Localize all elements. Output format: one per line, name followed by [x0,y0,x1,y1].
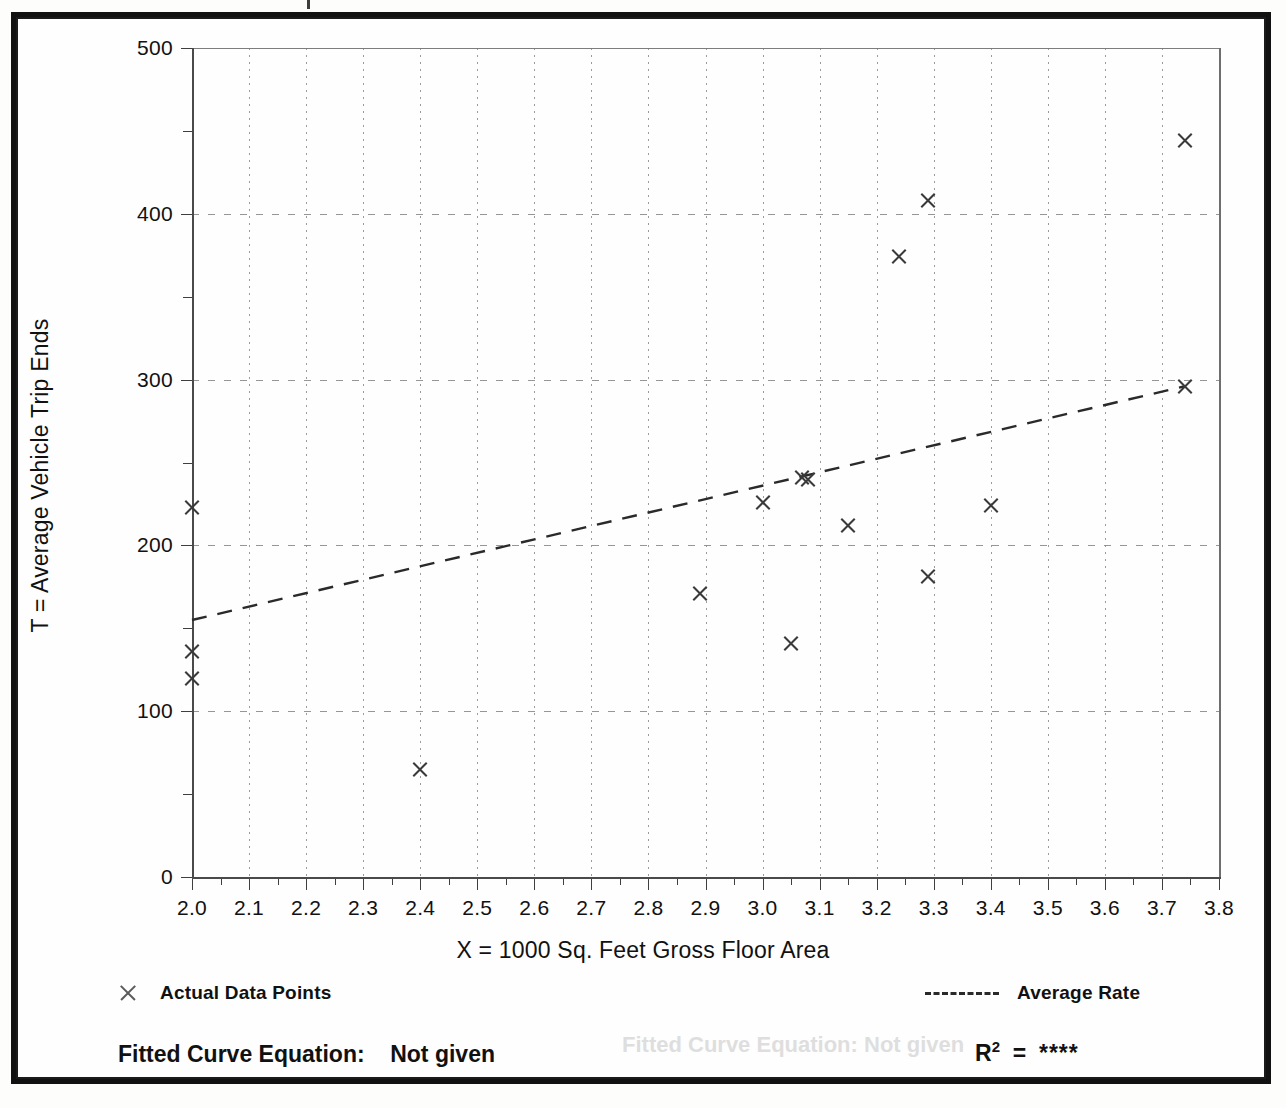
data-point-marker [1175,377,1194,396]
data-point-marker [1175,131,1194,150]
r-squared-label: R [975,1040,992,1066]
chart-plot-area: 2.02.12.22.32.42.52.62.72.82.93.03.13.23… [0,0,1286,1108]
data-point-marker [799,470,818,489]
dashed-line-icon [925,992,999,995]
r-squared-note: R2 = **** [975,1038,1079,1067]
data-point-marker [753,493,772,512]
r-squared-value: **** [1039,1040,1079,1066]
legend-label-average-rate: Average Rate [1017,982,1140,1004]
data-point-marker [782,634,801,653]
data-point-marker [411,760,430,779]
legend-label-actual-data-points: Actual Data Points [160,982,331,1004]
data-point-marker [183,669,202,688]
fitted-curve-equation-note: Fitted Curve Equation: Not given [118,1041,495,1068]
data-point-marker [183,498,202,517]
data-point-marker [839,516,858,535]
r-squared-equals: = [1013,1040,1026,1066]
fitted-curve-label: Fitted Curve Equation: [118,1041,365,1067]
data-point-marker [183,642,202,661]
x-marker-icon [118,983,138,1003]
data-point-marker [919,567,938,586]
x-axis-title: X = 1000 Sq. Feet Gross Floor Area [0,937,1286,964]
data-point-marker [890,247,909,266]
scanned-page: 2.02.12.22.32.42.52.62.72.82.93.03.13.23… [0,0,1286,1108]
legend-actual-data-points: Actual Data Points [118,982,331,1004]
r-squared-exponent: 2 [992,1038,1000,1055]
data-point-marker [690,584,709,603]
y-axis-title: T = Average Vehicle Trip Ends [27,266,54,686]
legend-average-rate: Average Rate [925,982,1140,1004]
data-point-marker [981,496,1000,515]
fitted-curve-value: Not given [390,1041,495,1067]
data-point-marker [919,191,938,210]
